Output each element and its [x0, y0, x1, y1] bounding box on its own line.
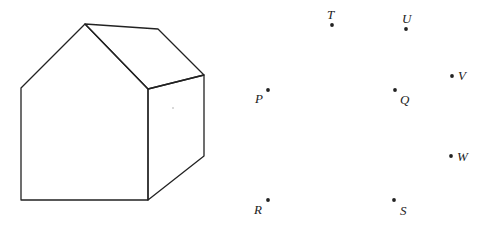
- diagram-canvas: TUVPQWRS: [0, 0, 491, 225]
- point-r-label: R: [253, 202, 262, 217]
- point-p-label: P: [254, 91, 263, 106]
- point-u-label: U: [402, 11, 413, 26]
- point-s-label: S: [400, 203, 407, 218]
- point-set: TUVPQWRS: [253, 7, 469, 218]
- point-t-label: T: [327, 7, 335, 22]
- house-side-wall: [148, 75, 204, 200]
- point-w-dot: [449, 154, 453, 158]
- house-figure: [21, 24, 204, 200]
- point-w-label: W: [457, 149, 469, 164]
- stray-speck: [172, 107, 174, 109]
- house-front-face: [21, 24, 148, 200]
- point-v-label: V: [458, 68, 468, 83]
- point-q-dot: [393, 88, 397, 92]
- point-u-dot: [404, 27, 408, 31]
- point-p-dot: [266, 88, 270, 92]
- point-r-dot: [266, 198, 270, 202]
- point-t-dot: [330, 23, 334, 27]
- point-v-dot: [450, 74, 454, 78]
- point-q-label: Q: [400, 92, 410, 107]
- point-s-dot: [392, 198, 396, 202]
